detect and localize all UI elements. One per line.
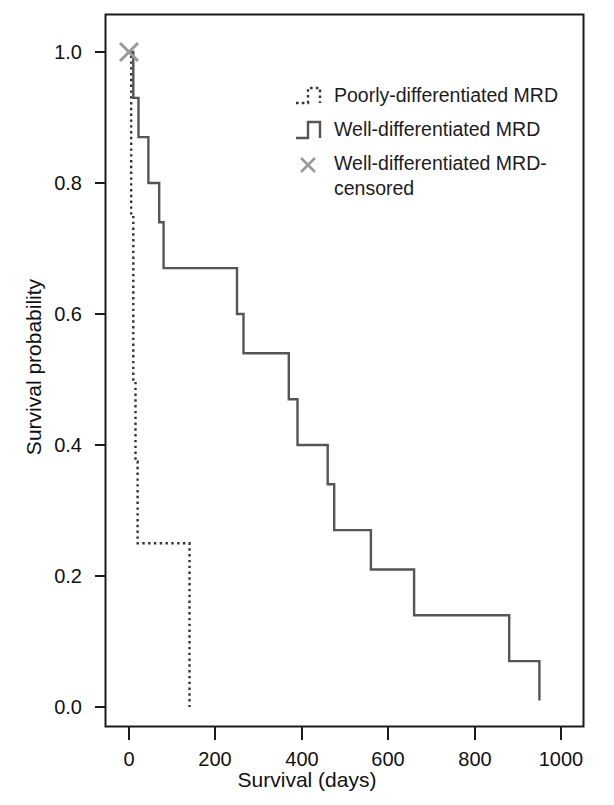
y-tick-label-0.0: 0.0	[14, 696, 82, 719]
legend-dotted-step-icon	[296, 88, 320, 103]
y-axis-ticks	[95, 52, 105, 707]
legend-label-well-differentiated-censored-line2: censored	[334, 176, 414, 201]
legend-solid-step-icon	[296, 122, 320, 138]
legend-label-well-differentiated-censored-line1: Well-differentiated MRD-	[334, 151, 547, 176]
legend-label-poorly-differentiated: Poorly-differentiated MRD	[334, 83, 558, 108]
y-tick-label-1.0: 1.0	[14, 41, 82, 64]
series-well-differentiated-mrd	[129, 52, 539, 701]
legend-x-mark-icon	[301, 158, 315, 172]
x-axis-ticks	[129, 727, 561, 740]
y-axis-label: Survival probability	[22, 267, 46, 467]
y-tick-label-0.8: 0.8	[14, 172, 82, 195]
legend-label-well-differentiated: Well-differentiated MRD	[334, 117, 540, 142]
censor-markers	[120, 43, 138, 61]
survival-curve-figure: 1.0 0.8 0.6 0.4 0.2 0.0 0 200 400 600 80…	[0, 0, 614, 805]
legend-symbols	[296, 88, 320, 172]
x-axis-label: Survival (days)	[0, 768, 614, 792]
censor-x-marker	[120, 43, 138, 61]
series-poorly-differentiated-mrd	[129, 52, 190, 707]
y-tick-label-0.2: 0.2	[14, 565, 82, 588]
